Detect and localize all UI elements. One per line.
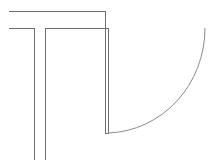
floor-plan-drawing xyxy=(0,0,215,168)
door-swing-arc xyxy=(108,28,205,133)
